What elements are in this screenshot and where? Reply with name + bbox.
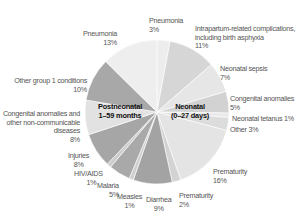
label-diarrhea: Diarrhea 9%: [146, 196, 172, 213]
label-hiv-aids: HIV/AIDS 1%: [74, 170, 103, 187]
label-neonatal-congenital: Congenital anomalies 5%: [230, 95, 294, 112]
label-text: Neonatal tetanus 1%: [232, 115, 294, 124]
label-name-line2: including birth asphyxia: [195, 34, 295, 43]
group-label-line2: (0–27 days): [171, 111, 209, 120]
label-postneonatal-pneumonia: Pneumonia 13%: [83, 30, 117, 47]
label-pct: 1%: [74, 179, 103, 188]
label-pct: 7%: [220, 74, 267, 83]
label-congenital-ncd: Congenital anomalies and other non-commu…: [3, 110, 80, 144]
label-name-line3: diseases: [3, 127, 80, 136]
label-pct: 10%: [14, 86, 87, 95]
group-label-line1: Neonatal: [171, 102, 209, 111]
group-label-line2: 1–59 months: [98, 111, 142, 120]
label-pct: 8%: [68, 161, 89, 170]
group-label-postneonatal: Postneonatal 1–59 months: [98, 102, 142, 120]
group-label-neonatal: Neonatal (0–27 days): [171, 102, 209, 120]
label-injuries: Injuries 8%: [68, 152, 89, 169]
label-neonatal-tetanus: Neonatal tetanus 1%: [232, 115, 294, 124]
group-label-line1: Postneonatal: [98, 102, 142, 111]
label-pct: 11%: [195, 42, 295, 51]
label-pct: 16%: [213, 177, 247, 186]
label-neonatal-sepsis: Neonatal sepsis 7%: [220, 65, 267, 82]
label-pct: 2%: [179, 201, 213, 210]
label-pct: 1%: [117, 202, 142, 211]
label-measles: Measles 1%: [117, 193, 142, 210]
label-neonatal-pneumonia: Pneumonia 3%: [149, 17, 183, 34]
label-pct: 5%: [97, 191, 119, 200]
label-pct: 13%: [83, 39, 117, 48]
label-text: Other 3%: [230, 126, 258, 135]
label-intrapartum: Intrapartum-related complications, inclu…: [195, 25, 295, 51]
label-pct: 5%: [230, 104, 294, 113]
label-neonatal-other: Other 3%: [230, 126, 258, 135]
label-prematurity-16: Prematurity 16%: [213, 168, 247, 185]
label-prematurity-2: Prematurity 2%: [179, 192, 213, 209]
label-other-group1: Other group 1 conditions 10%: [14, 77, 87, 94]
label-pct: 9%: [146, 205, 172, 214]
label-pct: 8%: [3, 136, 80, 145]
label-pct: 3%: [149, 26, 183, 35]
